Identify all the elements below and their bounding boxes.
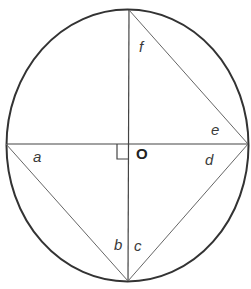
right-angle-marker — [117, 144, 129, 159]
chord-right-bottom — [128, 144, 248, 281]
angle-label-c: c — [134, 237, 142, 254]
angle-label-a: a — [33, 148, 41, 165]
angle-label-b: b — [114, 236, 122, 253]
chord-left-bottom — [6, 144, 128, 281]
circle-outline — [7, 10, 249, 282]
center-label: O — [136, 145, 148, 162]
angle-label-d: d — [205, 151, 214, 168]
chord-top-right — [129, 10, 248, 144]
angle-label-f: f — [139, 38, 145, 55]
angle-label-e: e — [211, 121, 219, 138]
circle-diagram: O f e a d b c — [0, 0, 251, 289]
vertical-diameter — [128, 10, 129, 281]
